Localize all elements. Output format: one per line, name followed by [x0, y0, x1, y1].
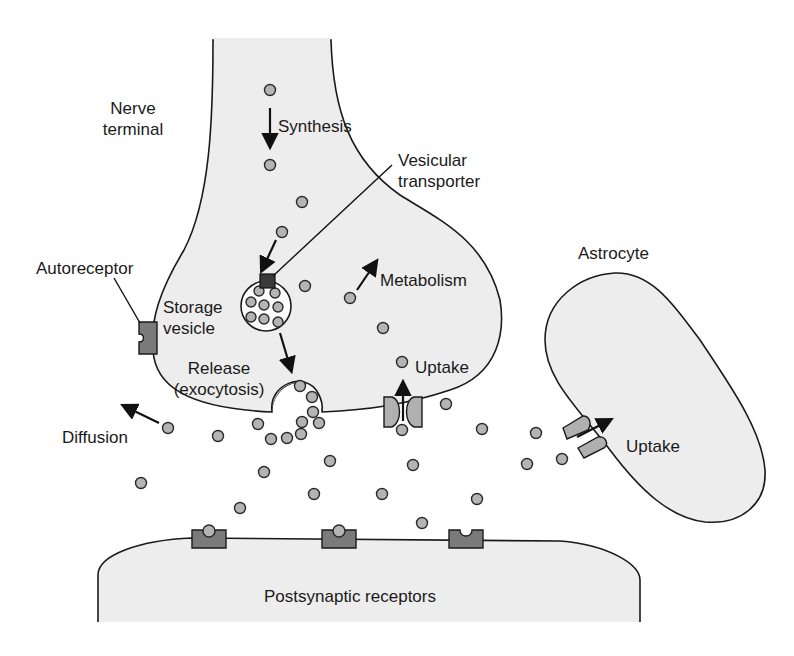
molecule [417, 518, 428, 529]
label-postsynaptic-receptors: Postsynaptic receptors [200, 586, 500, 607]
molecule [213, 431, 224, 442]
molecule [397, 425, 408, 436]
label-transporter: transporter [398, 171, 480, 192]
molecule [265, 85, 276, 96]
molecule [163, 423, 174, 434]
molecule [309, 489, 320, 500]
molecule [282, 433, 293, 444]
label-exocytosis: (exocytosis) [160, 379, 278, 400]
molecule [259, 467, 270, 478]
label-autoreceptor: Autoreceptor [36, 258, 133, 279]
molecule [308, 407, 319, 418]
molecule [270, 288, 280, 298]
astrocyte-transporter-bottom [578, 437, 606, 458]
label-release: Release (exocytosis) [160, 358, 278, 400]
molecule [477, 424, 488, 435]
molecule [273, 302, 283, 312]
postsynaptic-receptor [449, 530, 483, 548]
molecule [295, 381, 306, 392]
molecule [203, 525, 215, 537]
label-vesicular-transporter: Vesicular transporter [398, 150, 480, 192]
label-vesicle: vesicle [163, 318, 223, 339]
label-nerve: Nerve [93, 98, 173, 119]
molecule [397, 357, 408, 368]
molecule [297, 197, 308, 208]
autoreceptor-leader [114, 278, 140, 323]
molecule [377, 489, 388, 500]
molecule [273, 317, 283, 327]
molecule [307, 392, 318, 403]
molecule [136, 478, 147, 489]
label-metabolism: Metabolism [380, 270, 467, 291]
molecule [531, 428, 542, 439]
label-storage-vesicle: Storage vesicle [163, 297, 223, 339]
label-nerve-terminal: Nerve terminal [93, 98, 173, 140]
molecule [378, 323, 389, 334]
molecule [246, 312, 256, 322]
label-uptake-presynaptic: Uptake [415, 357, 469, 378]
molecule [333, 525, 345, 537]
postsynaptic-cell [98, 538, 640, 624]
molecule [408, 460, 419, 471]
label-vesicular: Vesicular [398, 150, 480, 171]
presynaptic-transporter-right [407, 397, 423, 427]
molecule [300, 281, 311, 292]
molecule [259, 300, 269, 310]
label-release-line1: Release [160, 358, 278, 379]
vesicular-transporter [260, 274, 275, 288]
molecule [265, 160, 276, 171]
molecule [246, 297, 256, 307]
label-synthesis: Synthesis [278, 116, 352, 137]
diffusion-arrow [124, 406, 159, 423]
presynaptic-transporter-left [384, 397, 400, 427]
label-uptake-astrocyte: Uptake [626, 436, 680, 457]
molecule [296, 429, 307, 440]
molecule [297, 417, 308, 428]
molecule [277, 227, 288, 238]
autoreceptor [139, 322, 157, 354]
molecule [253, 419, 264, 430]
label-diffusion: Diffusion [62, 427, 128, 448]
label-astrocyte: Astrocyte [578, 243, 649, 264]
molecule [441, 399, 452, 410]
label-terminal: terminal [93, 119, 173, 140]
molecule [472, 494, 483, 505]
label-storage: Storage [163, 297, 223, 318]
molecule [259, 314, 269, 324]
molecule [325, 456, 336, 467]
astrocyte [545, 273, 765, 522]
molecule [557, 454, 568, 465]
molecule [522, 459, 533, 470]
molecule [314, 418, 325, 429]
molecule [266, 434, 277, 445]
molecule [235, 503, 246, 514]
astrocyte-transporter-top [563, 416, 590, 439]
molecule [345, 293, 356, 304]
